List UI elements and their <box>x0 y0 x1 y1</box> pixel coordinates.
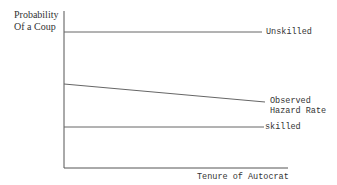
observed-hazard-rate-line <box>64 84 265 102</box>
observed-hazard-rate-label-line-1: Observed <box>270 96 311 106</box>
unskilled-label: Unskilled <box>266 27 312 37</box>
observed-hazard-rate-label-line-2: Hazard Rate <box>270 106 326 116</box>
skilled-label: skilled <box>265 122 301 132</box>
x-axis-label: Tenure of Autocrat <box>197 172 289 182</box>
